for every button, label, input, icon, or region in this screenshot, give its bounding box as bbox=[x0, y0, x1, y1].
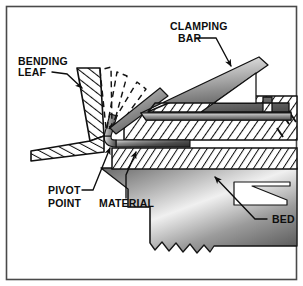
label-bending-leaf-line2: LEAF bbox=[18, 66, 47, 78]
label-pivot-point-line1: PIVOT bbox=[48, 184, 81, 196]
label-clamping-bar-line2: BAR bbox=[178, 32, 202, 44]
label-material: MATERIAL bbox=[99, 197, 154, 209]
technical-diagram: BENDING LEAF CLAMPING BAR PIVOT POINT MA… bbox=[0, 0, 303, 286]
label-bed: BED bbox=[272, 213, 295, 225]
label-clamping-bar-line1: CLAMPING bbox=[170, 20, 228, 32]
label-pivot-point-line2: POINT bbox=[48, 197, 81, 209]
figure-root: BENDING LEAF CLAMPING BAR PIVOT POINT MA… bbox=[0, 0, 303, 286]
bed-block bbox=[112, 148, 297, 169]
